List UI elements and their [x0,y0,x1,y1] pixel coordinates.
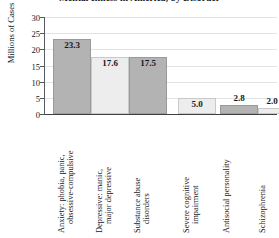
y-tick-mark-25 [40,33,45,34]
category-label-schizophrenia: Schizophrenia [258,185,267,233]
category-label-anxiety-line1: Anxiety: phobia, panic, [57,154,66,233]
y-tick-mark-30 [40,17,45,18]
y-tick-mark-15 [40,66,45,67]
category-label-severe-cognitive-line1: Severe cognitive [182,177,191,233]
category-label-antisocial: Antisocial personality [222,159,231,233]
y-tick-mark-10 [40,82,45,83]
chart-title: Mental Illness in America, by Disorder [0,0,279,3]
bar-antisocial [220,105,258,114]
y-tick-mark-20 [40,49,45,50]
bar-chart: Mental Illness in America, by Disorder M… [0,0,279,238]
bar-value-severe-cognitive: 5.0 [178,99,216,109]
bar-value-schizophrenia: 2.0 [256,96,279,106]
y-tick-label-30: 30 [18,13,40,23]
y-tick-mark-5 [40,98,45,99]
y-tick-label-20: 20 [18,45,40,55]
bar-value-antisocial: 2.8 [220,93,258,103]
y-axis-title: Millions of Cases [6,0,16,76]
bar-value-depressive: 17.6 [91,58,129,68]
y-tick-mark-0 [40,114,45,115]
y-tick-label-25: 25 [18,29,40,39]
category-label-severe-cognitive: Severe cognitive impairment [182,177,201,233]
y-tick-label-15: 15 [18,62,40,72]
category-label-schizophrenia-line1: Schizophrenia [258,185,267,233]
category-label-depressive-line1: Depressive: manic, [95,169,104,233]
category-label-substance-abuse-line1: Substance abuse [133,178,142,233]
y-tick-label-10: 10 [18,78,40,88]
x-axis-line [44,114,277,115]
y-tick-label-5: 5 [18,94,40,104]
category-label-antisocial-line1: Antisocial personality [222,159,231,233]
category-label-anxiety-line2: obsessive-compulsive [66,150,75,233]
category-label-anxiety: Anxiety: phobia, panic, obsessive-compul… [57,150,76,233]
y-tick-label-0: 0 [18,110,40,120]
bar-value-anxiety: 23.3 [53,40,91,50]
gridline-25 [45,33,277,34]
category-label-substance-abuse: Substance abuse disorders [133,178,152,233]
bar-value-substance-abuse: 17.5 [129,58,167,68]
category-label-severe-cognitive-line2: impairment [191,177,200,233]
category-label-depressive-line2: major depressive [104,167,113,233]
category-label-depressive: Depressive: manic, major depressive [95,167,114,233]
gridline-30 [45,17,277,18]
category-label-substance-abuse-line2: disorders [142,178,151,233]
